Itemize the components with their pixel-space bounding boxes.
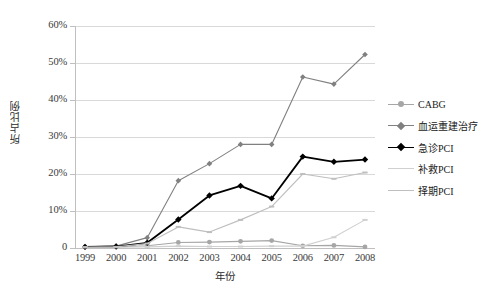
- line-chart: 010%20%30%40%50%60% 19992000200120022003…: [0, 0, 499, 293]
- y-tick-label: 30%: [48, 130, 67, 141]
- y-tick-label: 10%: [48, 204, 67, 215]
- gridline: [75, 211, 375, 212]
- y-tick-label: 20%: [48, 167, 67, 178]
- legend-item-label: 血运重建治疗: [418, 118, 478, 133]
- legend-item-label: 补救PCI: [418, 161, 454, 176]
- x-tick-label: 2001: [137, 252, 157, 263]
- x-tick-label: 2000: [106, 252, 126, 263]
- series-血运重建治疗: [82, 52, 368, 250]
- legend-item-择期PCI[interactable]: 择期PCI: [388, 184, 478, 196]
- y-axis-title: 所占比例: [8, 100, 23, 144]
- x-tick-label: 2008: [355, 252, 375, 263]
- legend-item-label: CABG: [418, 99, 446, 110]
- legend-swatch-icon: [388, 98, 414, 110]
- legend-swatch-icon: [388, 163, 414, 175]
- legend: CABG血运重建治疗急诊PCI补救PCI择期PCI: [388, 98, 478, 196]
- series-急诊PCI: [82, 153, 368, 250]
- legend-item-label: 急诊PCI: [418, 140, 454, 155]
- legend-item-label: 择期PCI: [418, 183, 454, 198]
- x-axis-title: 年份: [75, 268, 375, 283]
- series-补救PCI: [82, 219, 367, 248]
- legend-item-CABG[interactable]: CABG: [388, 98, 478, 110]
- series-择期PCI: [82, 172, 367, 249]
- legend-item-补救PCI[interactable]: 补救PCI: [388, 163, 478, 175]
- legend-item-血运重建治疗[interactable]: 血运重建治疗: [388, 120, 478, 132]
- x-tick-label: 2003: [199, 252, 219, 263]
- gridline: [75, 63, 375, 64]
- y-tick-label: 40%: [48, 93, 67, 104]
- legend-swatch-icon: [388, 120, 414, 132]
- x-tick-label: 2002: [168, 252, 188, 263]
- x-axis-line: [75, 248, 375, 249]
- x-tick-label: 2006: [293, 252, 313, 263]
- gridline: [75, 174, 375, 175]
- gridline: [75, 100, 375, 101]
- y-axis-line: [75, 26, 76, 248]
- x-tick-label: 2004: [230, 252, 250, 263]
- legend-swatch-icon: [388, 141, 414, 153]
- x-tick-label: 2005: [262, 252, 282, 263]
- legend-item-急诊PCI[interactable]: 急诊PCI: [388, 141, 478, 153]
- x-tick-label: 2007: [324, 252, 344, 263]
- y-tick-label: 60%: [48, 19, 67, 30]
- x-tick-label: 1999: [75, 252, 95, 263]
- gridline: [75, 26, 375, 27]
- y-tick-label: 50%: [48, 56, 67, 67]
- gridline: [75, 137, 375, 138]
- legend-swatch-icon: [388, 184, 414, 196]
- y-tick-label: 0: [62, 241, 67, 252]
